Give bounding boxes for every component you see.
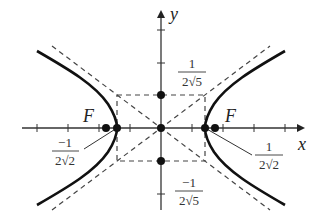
label-co-vertex-bottom: −1 2√5 [175, 175, 203, 208]
co-vertex-bottom-point [157, 157, 165, 165]
origin-point [157, 124, 165, 132]
y-axis-label: y [168, 4, 178, 24]
focus-left-label: F [82, 106, 95, 126]
co-vertex-top-numerator: 1 [189, 56, 196, 71]
focus-right-point [211, 124, 219, 132]
label-co-vertex-top: 1 2√5 [178, 56, 206, 89]
label-vertex-right: 1 2√2 [255, 139, 283, 172]
focus-left-point [102, 124, 110, 132]
vertex-left-point [113, 124, 121, 132]
hyperbola-diagram: y x F F 1 2√5 −1 2√5 −1 2√2 1 2√2 [0, 0, 327, 216]
co-vertex-top-denominator: 2√5 [182, 74, 202, 89]
vertex-right-denominator: 2√2 [259, 157, 279, 172]
x-axis-label: x [297, 134, 306, 154]
label-vertex-left: −1 2√2 [52, 135, 79, 168]
vertex-right-numerator: 1 [266, 139, 273, 154]
co-vertex-bottom-numerator: −1 [182, 175, 196, 190]
co-vertex-bottom-denominator: 2√5 [179, 193, 199, 208]
vertex-left-numerator: −1 [58, 135, 72, 150]
vertex-right-point [201, 124, 209, 132]
co-vertex-top-point [157, 91, 165, 99]
vertex-left-denominator: 2√2 [55, 153, 75, 168]
focus-right-label: F [224, 106, 237, 126]
